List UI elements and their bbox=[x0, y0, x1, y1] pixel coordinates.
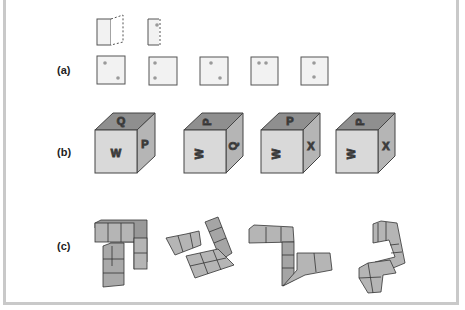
cube-1: Q W P bbox=[95, 113, 155, 173]
dot-square-3 bbox=[200, 57, 228, 85]
svg-text:W: W bbox=[193, 148, 205, 159]
cube-assembly-1 bbox=[95, 220, 147, 287]
figure-graphics: Q W P P W Q P W X P W X bbox=[0, 0, 465, 310]
svg-text:W: W bbox=[345, 148, 357, 159]
svg-text:W: W bbox=[111, 147, 122, 159]
svg-text:P: P bbox=[286, 115, 293, 127]
folded-flap bbox=[97, 15, 123, 45]
cube-2: P W Q bbox=[184, 113, 243, 173]
svg-text:Q: Q bbox=[227, 141, 239, 150]
dot-square-2 bbox=[149, 57, 177, 85]
svg-text:X: X bbox=[307, 140, 315, 152]
svg-text:P: P bbox=[354, 118, 366, 125]
cube-3: P W X bbox=[261, 113, 320, 173]
svg-text:P: P bbox=[201, 118, 213, 125]
cube-4: P W X bbox=[336, 113, 395, 173]
cube-assembly-2 bbox=[166, 217, 234, 278]
svg-text:Q: Q bbox=[117, 115, 126, 127]
half-square-with-dot bbox=[148, 19, 160, 45]
svg-text:P: P bbox=[141, 138, 148, 150]
dot-square-1 bbox=[97, 56, 125, 84]
dot-square-4 bbox=[251, 57, 278, 85]
svg-text:W: W bbox=[270, 148, 282, 159]
cube-assembly-3 bbox=[249, 225, 332, 286]
svg-text:X: X bbox=[382, 140, 390, 152]
cube-assembly-4 bbox=[359, 221, 405, 293]
dot-square-5 bbox=[301, 57, 328, 85]
